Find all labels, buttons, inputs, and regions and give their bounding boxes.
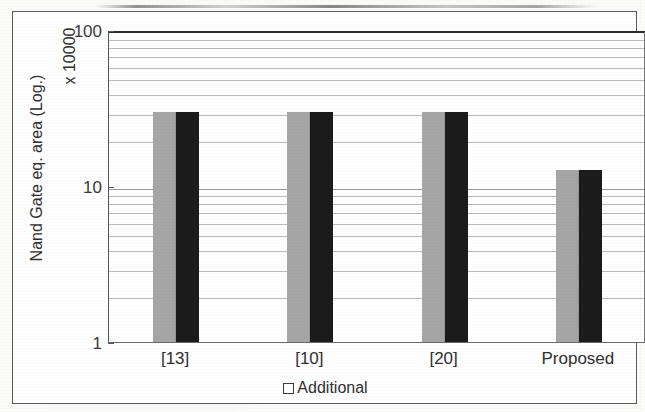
bar-group [109, 112, 243, 342]
x-tick-label-2: [20] [377, 349, 511, 369]
bar-base-2[interactable] [422, 112, 445, 342]
legend-label-additional: Additional [297, 379, 367, 397]
y-tick-mark-1 [108, 343, 114, 344]
bar-additional-2[interactable] [445, 112, 468, 342]
bar-group [378, 112, 512, 342]
bar-group [243, 112, 377, 342]
scanned-page-background: Nand Gate eq. area (Log.) x 10000 110100… [0, 0, 645, 412]
y-axis-tick-labels: 110100 [51, 12, 102, 405]
y-tick-mark-100 [108, 31, 114, 32]
chart-legend: Additional [13, 379, 638, 397]
gridline-minor [109, 95, 644, 96]
plot-area [108, 31, 645, 343]
gridline-minor [109, 80, 644, 81]
bar-base-0[interactable] [153, 112, 176, 342]
gridline-minor [109, 48, 644, 49]
y-tick-label-10: 10 [83, 179, 102, 196]
x-tick-label-1: [10] [242, 349, 376, 369]
bar-group [512, 170, 645, 342]
page-edge-artifact [96, 5, 596, 8]
bar-additional-0[interactable] [176, 112, 199, 342]
bar-additional-3[interactable] [579, 170, 602, 342]
gridline-minor [109, 40, 644, 41]
x-axis-tick-labels: [13][10][20]Proposed [108, 349, 645, 375]
open-square-icon [283, 383, 294, 394]
y-axis-title: Nand Gate eq. area (Log.) [28, 18, 46, 318]
x-tick-label-3: Proposed [511, 349, 645, 369]
y-tick-label-100: 100 [74, 23, 102, 40]
bar-additional-1[interactable] [310, 112, 333, 342]
gridline-minor [109, 57, 644, 58]
y-tick-label-1: 1 [93, 335, 102, 352]
gridline-minor [109, 68, 644, 69]
bar-base-1[interactable] [287, 112, 310, 342]
bar-base-3[interactable] [556, 170, 579, 342]
chart-frame: Nand Gate eq. area (Log.) x 10000 110100… [12, 11, 637, 404]
y-tick-mark-10 [108, 187, 114, 188]
x-tick-label-0: [13] [108, 349, 242, 369]
